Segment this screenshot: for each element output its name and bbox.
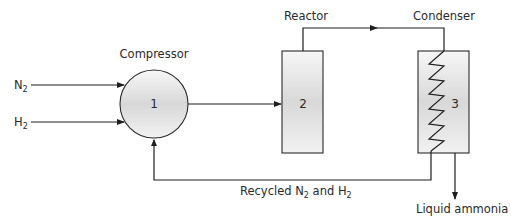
h2-label: H2 bbox=[14, 115, 28, 131]
recycle-label: Recycled N2 and H2 bbox=[240, 184, 352, 200]
reactor-unit: Reactor 2 bbox=[282, 9, 328, 153]
condenser-number: 3 bbox=[451, 97, 459, 111]
recycle-arrowhead bbox=[151, 139, 157, 146]
condenser-label: Condenser bbox=[413, 9, 475, 23]
reactor-to-condenser-line bbox=[303, 28, 444, 51]
n2-label: N2 bbox=[14, 78, 28, 94]
compressor-number: 1 bbox=[150, 97, 158, 111]
reactor-label: Reactor bbox=[284, 9, 328, 23]
liquid-ammonia-label: Liquid ammonia bbox=[416, 202, 508, 216]
reactor-number: 2 bbox=[299, 97, 307, 111]
reactor-to-condenser-arrowhead bbox=[370, 25, 378, 31]
h2-input: H2 bbox=[14, 115, 124, 131]
compressor-label: Compressor bbox=[120, 47, 189, 61]
n2-input: N2 bbox=[14, 78, 124, 94]
ammonia-process-diagram: N2 H2 Compressor 1 Reactor 2 Condenser 3… bbox=[0, 0, 511, 223]
compressor-unit: Compressor 1 bbox=[120, 47, 189, 138]
